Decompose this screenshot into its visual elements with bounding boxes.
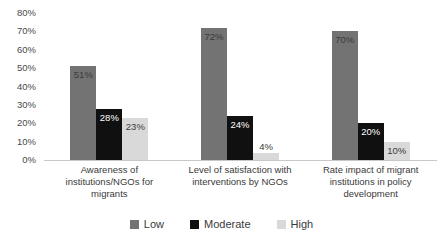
bar-value-label: 72% <box>204 32 223 42</box>
bar-group: 51% 28% 23% <box>44 13 175 160</box>
category-label: Awareness of institutions/NGOs for migra… <box>44 164 175 208</box>
bar-moderate: 20% <box>358 13 384 160</box>
bar-low: 70% <box>332 13 358 160</box>
category-label: Level of satisfaction with interventions… <box>175 164 306 208</box>
bar-moderate: 24% <box>227 13 253 160</box>
legend: Low Moderate High <box>0 218 443 230</box>
x-axis-category-labels: Awareness of institutions/NGOs for migra… <box>44 164 436 208</box>
legend-label: High <box>291 218 314 230</box>
y-axis-tick: 0% <box>22 155 36 165</box>
bar-low: 51% <box>70 13 96 160</box>
y-axis-tick: 70% <box>17 26 36 36</box>
bar-value-label: 51% <box>74 70 93 80</box>
bar-value-label: 23% <box>126 122 145 132</box>
legend-label: Low <box>144 218 164 230</box>
y-axis-tick: 50% <box>17 63 36 73</box>
y-axis-tick: 60% <box>17 45 36 55</box>
bar-chart: 80% 70% 60% 50% 40% 30% 20% 10% 0% 51% 2… <box>0 0 443 251</box>
y-axis: 80% 70% 60% 50% 40% 30% 20% 10% 0% <box>0 0 40 160</box>
bar-high: 4% <box>253 13 279 160</box>
bar-group: 72% 24% 4% <box>175 13 306 160</box>
x-axis-line <box>44 160 437 161</box>
bar-group: 70% 20% 10% <box>305 13 436 160</box>
legend-item-moderate[interactable]: Moderate <box>190 218 250 230</box>
legend-swatch-icon <box>277 220 286 229</box>
bar-value-label: 24% <box>230 120 249 130</box>
y-axis-tick: 30% <box>17 100 36 110</box>
bar-moderate: 28% <box>96 13 122 160</box>
legend-swatch-icon <box>130 220 139 229</box>
bar-value-label: 70% <box>335 35 354 45</box>
bar-low: 72% <box>201 13 227 160</box>
bar-value-label: 4% <box>259 142 273 152</box>
legend-item-low[interactable]: Low <box>130 218 164 230</box>
bar-value-label: 28% <box>100 113 119 123</box>
legend-item-high[interactable]: High <box>277 218 314 230</box>
legend-swatch-icon <box>190 220 199 229</box>
y-axis-tick: 80% <box>17 8 36 18</box>
legend-label: Moderate <box>204 218 250 230</box>
bar-value-label: 10% <box>387 146 406 156</box>
category-label: Rate impact of migrant institutions in p… <box>305 164 436 208</box>
bar-value-label: 20% <box>361 127 380 137</box>
plot-area: 51% 28% 23% 72% <box>44 13 436 160</box>
y-axis-tick: 20% <box>17 118 36 128</box>
bar-high: 23% <box>122 13 148 160</box>
bar-high: 10% <box>384 13 410 160</box>
y-axis-tick: 10% <box>17 137 36 147</box>
y-axis-tick: 40% <box>17 82 36 92</box>
